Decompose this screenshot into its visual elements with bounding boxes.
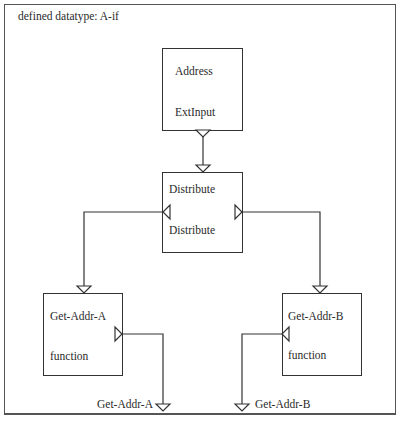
port-get-addr-b-in-left-icon [282, 327, 289, 341]
port-distribute-left-icon [163, 205, 170, 219]
connection-wires [0, 0, 400, 421]
port-distribute-in-icon [196, 165, 210, 172]
port-address-out-icon [196, 130, 210, 137]
port-get-addr-a-in-icon [77, 286, 91, 293]
port-output-b-icon [235, 404, 249, 411]
port-get-addr-b-in-icon [313, 286, 327, 293]
port-distribute-right-icon [235, 205, 242, 219]
port-output-a-icon [156, 404, 170, 411]
port-get-addr-a-out-icon [115, 327, 122, 341]
